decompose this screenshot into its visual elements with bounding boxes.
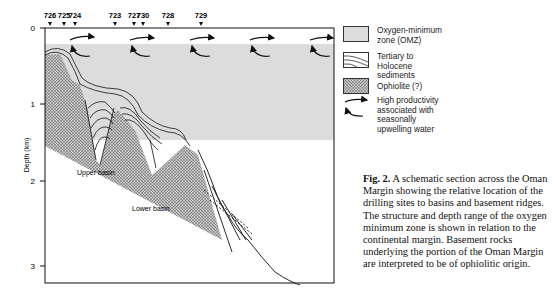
y-tick-3: 3 bbox=[31, 262, 36, 271]
upper-basin-label: Upper basin bbox=[77, 169, 115, 177]
caption-label: Fig. 2. bbox=[363, 173, 390, 184]
legend-item-omz: Oxygen-minimum zone (OMZ) bbox=[343, 26, 447, 45]
site-marker-icon bbox=[199, 22, 203, 26]
legend-item-sediments: Tertiary to Holocene sediments bbox=[343, 52, 447, 81]
site-marker-icon bbox=[141, 22, 145, 26]
site-label-728: 728 bbox=[162, 11, 175, 20]
legend-label: High productivity associated with season… bbox=[377, 96, 449, 134]
legend-label: Tertiary to Holocene sediments bbox=[377, 52, 447, 81]
cross-section-diagram: 0 1 2 3 Depth (km) 726 725 724 723 727 7… bbox=[0, 0, 340, 305]
legend-item-ophiolite: Ophiolite (?) bbox=[343, 78, 447, 94]
legend-item-upwelling: High productivity associated with season… bbox=[343, 96, 449, 134]
y-axis: 0 1 2 3 Depth (km) bbox=[23, 24, 45, 271]
legend-label: Ophiolite (?) bbox=[377, 78, 447, 92]
sediment-swatch-icon bbox=[343, 52, 369, 68]
site-marker-icon bbox=[73, 22, 77, 26]
site-marker-icon bbox=[113, 22, 117, 26]
site-label-724: 724 bbox=[69, 11, 82, 20]
caption-text: A schematic section across the Oman Marg… bbox=[363, 173, 547, 269]
site-marker-icon bbox=[132, 22, 136, 26]
lower-basin-label: Lower basin bbox=[132, 205, 170, 212]
legend-label: Oxygen-minimum zone (OMZ) bbox=[377, 26, 447, 45]
figure-caption: Fig. 2. A schematic section across the O… bbox=[363, 173, 553, 271]
y-axis-label: Depth (km) bbox=[23, 138, 31, 173]
y-tick-2: 2 bbox=[31, 177, 36, 186]
site-marker-icon bbox=[166, 22, 170, 26]
site-label-726: 726 bbox=[44, 11, 57, 20]
site-marker-icon bbox=[62, 22, 66, 26]
ophiolite-swatch-icon bbox=[343, 78, 369, 94]
y-tick-1: 1 bbox=[31, 100, 36, 109]
upwelling-legend-icon bbox=[343, 96, 369, 118]
site-label-723: 723 bbox=[109, 11, 122, 20]
y-tick-0: 0 bbox=[31, 24, 36, 33]
omz-swatch-icon bbox=[343, 26, 369, 42]
drilling-sites: 726 725 724 723 727 730 728 729 bbox=[44, 11, 208, 26]
site-label-730: 730 bbox=[137, 11, 150, 20]
site-label-729: 729 bbox=[195, 11, 208, 20]
site-marker-icon bbox=[48, 22, 52, 26]
